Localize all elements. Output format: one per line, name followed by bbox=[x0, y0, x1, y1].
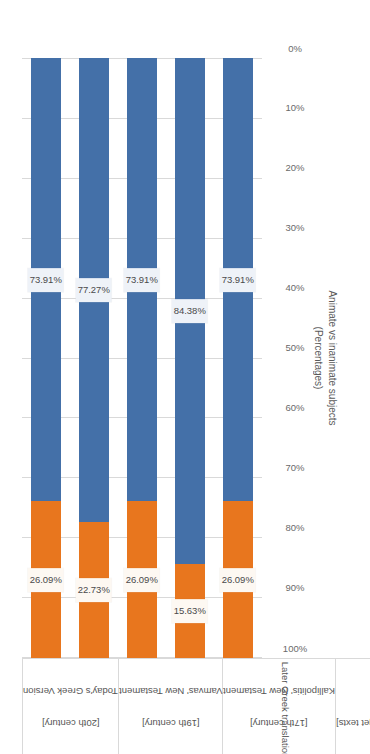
category-note-label: [19th century] bbox=[142, 699, 200, 729]
bar-value-label: 22.73% bbox=[76, 578, 112, 602]
value-axis-tick-label: 70% bbox=[285, 463, 304, 493]
value-axis-tick-label: 30% bbox=[285, 223, 304, 253]
bar-value-label: 26.09% bbox=[124, 568, 160, 592]
value-axis-tick-label: 0% bbox=[288, 43, 302, 73]
value-axis-tick-label: 50% bbox=[285, 343, 304, 373]
bar-series-group: 73.91%26.09%77.27%22.73%73.91%26.09%84.3… bbox=[22, 58, 262, 658]
bar-row: 73.91%26.09% bbox=[31, 58, 61, 658]
value-axis-title: Animate vs inanimate subjects(Percentage… bbox=[312, 58, 339, 658]
bar-row: 73.91%26.09% bbox=[223, 58, 253, 658]
category-axis-cell: [20th century]Today's Greek Version bbox=[22, 658, 118, 754]
bar-segment-inanimate[interactable]: 73.91% bbox=[31, 58, 61, 501]
bar-segment-inanimate[interactable]: 77.27% bbox=[79, 58, 109, 522]
value-axis-title-line: (Percentages) bbox=[312, 58, 326, 658]
category-group-axis: Later Greek translations of the New Test… bbox=[262, 658, 308, 754]
bar-value-label: 73.91% bbox=[220, 268, 256, 292]
value-axis-ticks: 100%90%80%70%60%50%40%30%20%10%0% bbox=[268, 58, 310, 658]
value-axis-title-line: Animate vs inanimate subjects bbox=[326, 58, 340, 658]
bar-value-label: 26.09% bbox=[220, 568, 256, 592]
value-axis-tick-label: 20% bbox=[285, 163, 304, 193]
value-axis-tick-label: 10% bbox=[285, 103, 304, 133]
bar-value-label: 73.91% bbox=[124, 268, 160, 292]
value-axis-tick-label: 40% bbox=[285, 283, 304, 313]
bar-value-label: 15.63% bbox=[172, 599, 208, 623]
category-axis-cell: [19th century]Vamvas' New Testament bbox=[118, 658, 222, 754]
bar-row: 77.27%22.73% bbox=[79, 58, 109, 658]
value-axis-tick-label: 60% bbox=[285, 403, 304, 433]
bar-value-label: 77.27% bbox=[76, 278, 112, 302]
chart-canvas: 73.91%26.09%77.27%22.73%73.91%26.09%84.3… bbox=[0, 0, 370, 754]
bar-segment-animate[interactable]: 26.09% bbox=[127, 501, 157, 658]
bar-segment-animate[interactable]: 22.73% bbox=[79, 522, 109, 658]
category-name-label: Today's Greek Version bbox=[23, 661, 118, 697]
category-axis-cell: [Influence on the source and target text… bbox=[335, 658, 370, 754]
category-group-label: Later Greek translations of the New Test… bbox=[280, 662, 290, 754]
stacked-bar-chart: 73.91%26.09%77.27%22.73%73.91%26.09%84.3… bbox=[0, 0, 370, 754]
plot-area: 73.91%26.09%77.27%22.73%73.91%26.09%84.3… bbox=[22, 58, 262, 658]
bar-segment-inanimate[interactable]: 73.91% bbox=[223, 58, 253, 501]
value-axis-tick-label: 90% bbox=[285, 583, 304, 613]
bar-segment-animate[interactable]: 15.63% bbox=[175, 564, 205, 658]
category-name-label: Vamvas' New Testament bbox=[119, 661, 222, 697]
category-note-label: [20th century] bbox=[42, 699, 100, 729]
bar-value-label: 84.38% bbox=[172, 299, 208, 323]
bar-segment-animate[interactable]: 26.09% bbox=[31, 501, 61, 658]
bar-value-label: 73.91% bbox=[28, 268, 64, 292]
bar-segment-animate[interactable]: 26.09% bbox=[223, 501, 253, 658]
category-axis: [20th century]Today's Greek Version[19th… bbox=[22, 658, 262, 754]
bar-segment-inanimate[interactable]: 73.91% bbox=[127, 58, 157, 501]
bar-value-label: 26.09% bbox=[28, 568, 64, 592]
value-axis-tick-label: 80% bbox=[285, 523, 304, 553]
bar-segment-inanimate[interactable]: 84.38% bbox=[175, 58, 205, 564]
category-note-label: [Influence on the source and target text… bbox=[336, 699, 370, 729]
bar-row: 73.91%26.09% bbox=[127, 58, 157, 658]
bar-row: 84.38%15.63% bbox=[175, 58, 205, 658]
